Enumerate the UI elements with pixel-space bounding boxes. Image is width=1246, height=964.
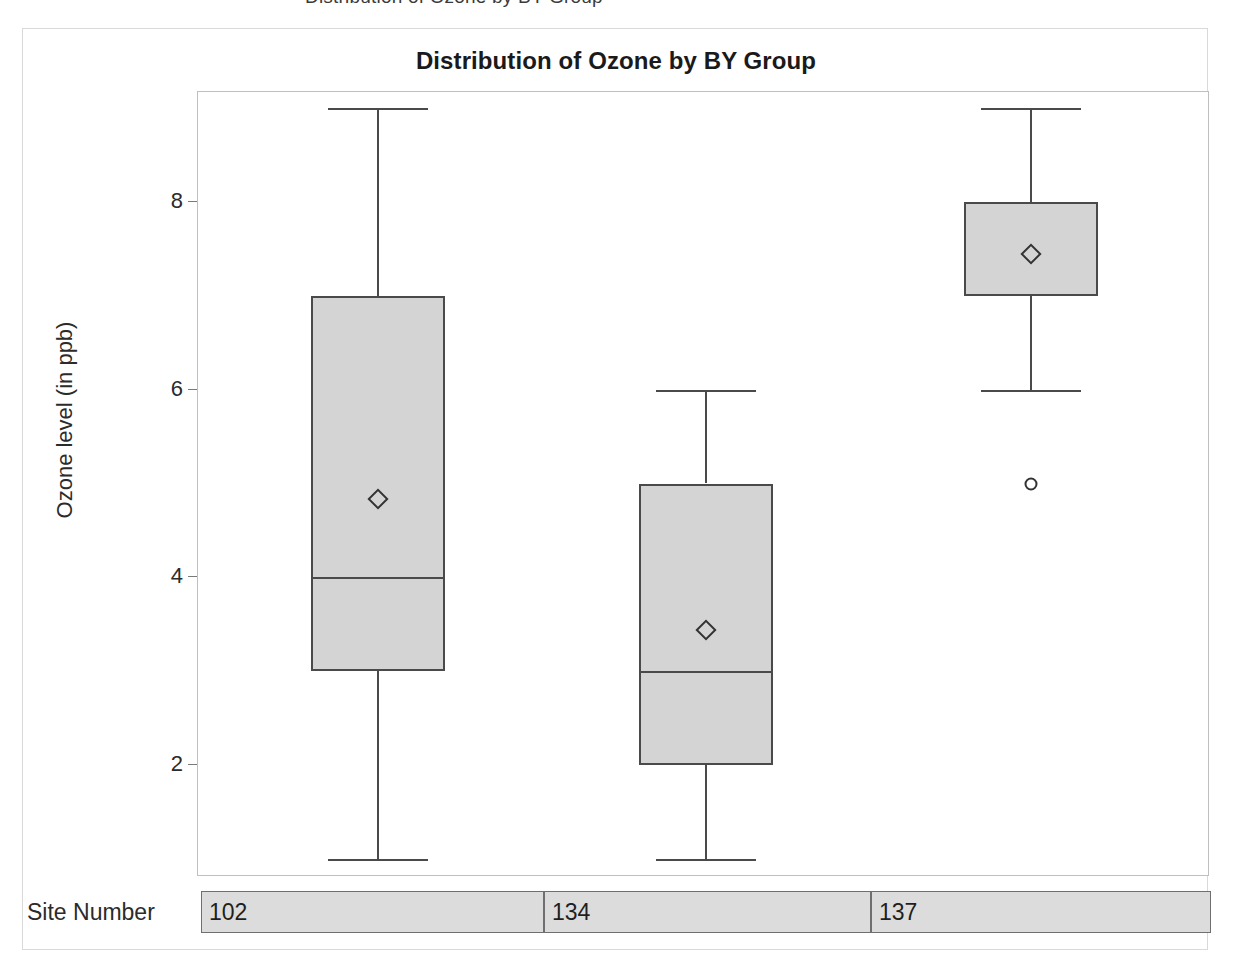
plot-area [197, 91, 1209, 876]
y-axis-tick-2 [188, 764, 197, 765]
y-axis-tick-label: 6 [143, 376, 183, 402]
boxplot-group-137 [198, 92, 1208, 875]
y-axis-tick-4 [188, 576, 197, 577]
upper-whisker-cap [981, 108, 1081, 110]
page-title: Distribution of Ozone by BY Group [23, 47, 1209, 75]
outlier-marker [1025, 477, 1038, 490]
figure-frame: Distribution of Ozone by BY Group Ozone … [22, 28, 1208, 950]
clipped-header-strip: Distribution of Ozone by BY Group [0, 0, 1246, 16]
category-row-label: Site Number [27, 891, 197, 933]
category-cell-134[interactable]: 134 [544, 891, 871, 933]
clipped-header-text: Distribution of Ozone by BY Group [305, 0, 603, 8]
y-axis-title: Ozone level (in ppb) [52, 140, 78, 700]
category-axis-band: Site Number 102134137 [23, 891, 1209, 933]
y-axis-tick-6 [188, 389, 197, 390]
y-axis-tick-labels: 2468 [133, 29, 183, 951]
category-cell-102[interactable]: 102 [201, 891, 544, 933]
y-axis-tick-label: 2 [143, 751, 183, 777]
y-axis-tick-label: 8 [143, 188, 183, 214]
category-cell-137[interactable]: 137 [871, 891, 1211, 933]
upper-whisker-stem [1030, 108, 1032, 202]
lower-whisker-cap [981, 390, 1081, 392]
y-axis-tick-8 [188, 201, 197, 202]
lower-whisker-stem [1030, 296, 1032, 390]
y-axis-tick-label: 4 [143, 563, 183, 589]
